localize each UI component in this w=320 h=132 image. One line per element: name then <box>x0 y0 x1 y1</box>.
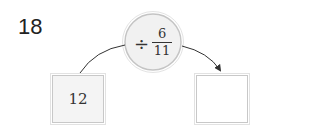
left-arc <box>80 45 125 73</box>
denominator: 11 <box>154 44 171 58</box>
right-arrow <box>182 46 220 70</box>
fraction: 6 11 <box>152 27 172 58</box>
operation-label: ÷ 6 11 <box>125 14 181 70</box>
divide-sign: ÷ <box>134 33 149 54</box>
input-box: 12 <box>52 75 104 123</box>
answer-box[interactable] <box>196 75 248 123</box>
numerator: 6 <box>158 27 166 41</box>
